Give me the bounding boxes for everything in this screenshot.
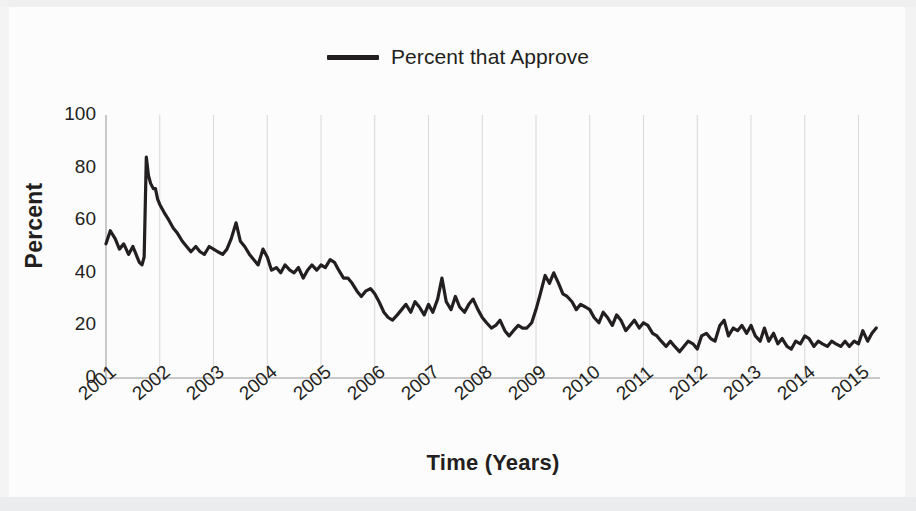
gridlines: [106, 115, 859, 378]
y-tick-label-40: 40: [50, 261, 96, 283]
chart-screenshot: Percent that Approve 020406080100 200120…: [0, 0, 916, 511]
y-tick-label-20: 20: [50, 313, 96, 335]
y-axis-title: Percent: [21, 176, 48, 276]
x-axis-title: Time (Years): [106, 450, 880, 476]
y-tick-label-60: 60: [50, 208, 96, 230]
plot-svg: [0, 0, 916, 511]
axis-lines: [106, 115, 880, 378]
data-series-group: [106, 157, 876, 352]
y-tick-label-80: 80: [50, 156, 96, 178]
y-tick-label-100: 100: [50, 103, 96, 125]
plot-area: 020406080100 200120022003200420052006200…: [0, 0, 916, 511]
series-line-percent-that-approve: [106, 157, 876, 352]
